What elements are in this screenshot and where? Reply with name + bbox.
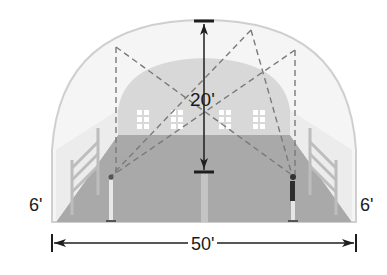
left-wall-height-label: 6'	[29, 196, 42, 214]
right-wall-height-label: 6'	[360, 196, 373, 214]
center-pole	[201, 172, 208, 222]
height-label: 20'	[190, 90, 215, 109]
width-label: 50'	[188, 235, 217, 253]
